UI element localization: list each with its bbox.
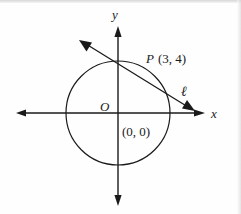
figure-canvas [0, 0, 241, 214]
origin-letter-label: O [100, 100, 109, 113]
x-axis-label: x [211, 107, 217, 120]
x-axis-arrow-right [194, 109, 205, 116]
geometry-figure: y x O (0, 0) P(3, 4) ℓ [0, 0, 241, 214]
point-p-label: P(3, 4) [146, 52, 186, 65]
y-axis [114, 26, 121, 206]
y-axis-arrow-top [114, 26, 121, 37]
point-p-name: P [146, 51, 154, 66]
x-axis-arrow-left [16, 109, 26, 116]
y-axis-arrow-bottom [114, 195, 121, 206]
tangent-arrow-lower-right [182, 100, 195, 111]
tangent-line-label: ℓ [181, 85, 187, 99]
point-p-coordinates: (3, 4) [158, 51, 186, 66]
y-axis-label: y [112, 8, 118, 21]
origin-coordinates-label: (0, 0) [122, 125, 150, 138]
x-axis [16, 109, 205, 116]
